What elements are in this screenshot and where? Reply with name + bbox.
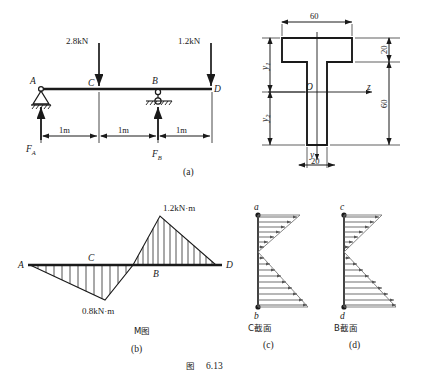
pin-support-A bbox=[33, 91, 49, 104]
span-label-3: 1m bbox=[176, 125, 187, 135]
stress-d-label-c: c bbox=[340, 202, 345, 212]
span-label-2: 1m bbox=[118, 125, 129, 135]
stress-c-label-a: a bbox=[254, 202, 259, 212]
panel-beam-diagram: 2.8kN C 1.2kN D A B FA bbox=[25, 36, 221, 178]
stress-c-title: C截面 bbox=[248, 323, 272, 333]
joint-B bbox=[155, 89, 160, 94]
dim-web-width-label: 20 bbox=[311, 156, 320, 166]
node-label-A: A bbox=[29, 76, 36, 86]
reaction-label-A: FA bbox=[25, 144, 36, 156]
load-label-C: 2.8kN bbox=[66, 36, 89, 46]
moment-value-positive: 1.2kN·m bbox=[163, 203, 195, 213]
moment-node-B: B bbox=[153, 269, 159, 279]
panel-b-tag: (b) bbox=[131, 344, 142, 355]
moment-negative-region bbox=[30, 265, 133, 300]
stress-c-label-b: b bbox=[254, 311, 259, 321]
figure-6-13: 2.8kN C 1.2kN D A B FA bbox=[0, 0, 421, 382]
figure-caption: 图 6.13 bbox=[186, 361, 223, 371]
stress-d-arrows bbox=[344, 217, 396, 305]
span-dimensions: 1m 1m 1m bbox=[43, 125, 210, 136]
dim-flange-width-label: 60 bbox=[310, 11, 319, 21]
panel-c-tag: (c) bbox=[263, 340, 274, 351]
axis-z-label: z bbox=[366, 82, 371, 92]
node-label-B: B bbox=[152, 76, 158, 86]
dimension-extension-lines bbox=[41, 92, 212, 143]
stress-c-lower-outline bbox=[258, 252, 308, 307]
span-label-1: 1m bbox=[59, 125, 70, 135]
panel-stress-section-c: a b C截面 (c) bbox=[248, 202, 308, 351]
moment-positive-region bbox=[133, 216, 216, 265]
moment-diagram-title: M图 bbox=[134, 326, 150, 336]
origin-label-O: O bbox=[306, 82, 313, 92]
reaction-label-B: FB bbox=[151, 149, 162, 161]
stress-d-upper-outline bbox=[344, 215, 382, 252]
dim-flange-thickness: 20 bbox=[355, 38, 400, 62]
dim-y1-label: y1 bbox=[260, 63, 271, 71]
panel-stress-section-b: c d B截面 (d) bbox=[334, 202, 396, 351]
moment-value-negative: 0.8kN·m bbox=[82, 306, 114, 316]
figure-caption-number: 6.13 bbox=[206, 361, 223, 371]
moment-node-A: A bbox=[17, 260, 24, 270]
stress-d-title: B截面 bbox=[334, 323, 358, 333]
dim-web-height-label: 60 bbox=[379, 100, 389, 109]
panel-d-tag: (d) bbox=[349, 340, 360, 351]
dim-flange-thickness-label: 20 bbox=[379, 46, 389, 55]
node-label-D: D bbox=[213, 84, 221, 94]
dim-y2-label: y2 bbox=[260, 114, 271, 123]
dim-y2: y2 bbox=[260, 92, 305, 145]
moment-positive-hatching bbox=[138, 220, 212, 266]
panel-cross-section: z y O 60 20 60 20 bbox=[260, 11, 400, 168]
moment-node-D: D bbox=[225, 260, 233, 270]
stress-d-label-d: d bbox=[340, 311, 345, 321]
panel-a-tag: (a) bbox=[183, 167, 194, 178]
stress-c-upper-outline bbox=[258, 215, 300, 252]
panel-moment-diagram: A C B D 1.2kN·m 0.8kN·m M图 (b) bbox=[17, 203, 233, 355]
moment-negative-hatching bbox=[38, 265, 126, 299]
load-label-D: 1.2kN bbox=[178, 36, 201, 46]
stress-d-lower-outline bbox=[344, 252, 396, 307]
moment-node-C: C bbox=[88, 253, 95, 263]
dim-web-height: 60 bbox=[330, 62, 400, 145]
figure-caption-prefix: 图 bbox=[186, 361, 195, 371]
node-label-C: C bbox=[88, 78, 95, 88]
